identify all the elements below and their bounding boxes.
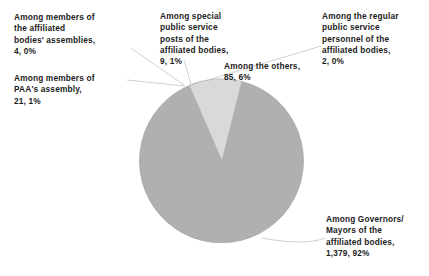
- slice-label-among-the-others: Among the others, 85, 6%: [224, 61, 328, 84]
- leader-line-paa-assembly: [127, 80, 185, 86]
- slice-label-among-governors-mayors: Among Governors/ Mayors of the affiliate…: [326, 214, 428, 259]
- slice-label-among-regular-public-service-personnel: Among the regular public service personn…: [322, 11, 426, 67]
- pie-slices: [139, 79, 303, 243]
- slice-label-among-special-public-service-posts: Among special public service posts of th…: [160, 11, 256, 67]
- pie-chart-figure: Among members of the affiliated bodies' …: [0, 0, 429, 276]
- leader-line-governors-mayors: [262, 238, 325, 242]
- slice-label-among-members-assemblies: Among members of the affiliated bodies' …: [14, 12, 132, 57]
- slice-label-among-members-paa-assembly: Among members of PAA's assembly, 21, 1%: [14, 73, 132, 107]
